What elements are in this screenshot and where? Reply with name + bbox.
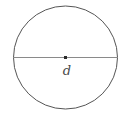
center-point-dot <box>64 56 67 59</box>
circle-diagram-svg <box>0 0 125 115</box>
diameter-label: d <box>61 64 73 77</box>
circle-diagram-canvas: d <box>0 0 125 115</box>
